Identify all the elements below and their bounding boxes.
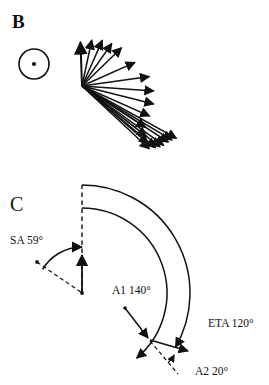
center-dot-icon	[32, 62, 36, 66]
sa-dashed-leg-lower	[37, 262, 82, 293]
sa-angle-label: SA 59°	[10, 235, 43, 247]
panel-c-geometry	[35, 185, 190, 374]
sa-arc	[43, 247, 82, 269]
a1-angle-label: A1 140°	[112, 285, 151, 297]
a2-chord-arrow	[150, 340, 188, 351]
vector-arrow	[82, 40, 102, 86]
vector-arrow	[82, 86, 164, 145]
vector-arrow	[82, 48, 122, 86]
a2-arc	[168, 355, 174, 362]
a2-angle-label: A2 20°	[195, 366, 228, 378]
scientific-figure: B C	[0, 0, 269, 385]
sa-vertex-dot	[35, 260, 39, 264]
out-of-page-vector-symbol	[19, 49, 49, 79]
eta-angle-label: ETA 120°	[208, 318, 254, 330]
a1-incoming-arrow-dot	[123, 306, 127, 310]
vector-fan	[80, 40, 176, 149]
a2-dashed-leg	[150, 341, 178, 374]
a1-incoming-arrow	[125, 308, 148, 338]
vector-arrow	[80, 42, 82, 86]
